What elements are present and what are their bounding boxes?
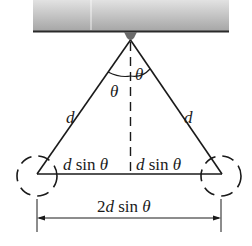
left-half-base-label: d sin θ — [63, 155, 108, 174]
total-width-label: 2d sin θ — [97, 197, 151, 216]
right-angle-label: θ — [135, 65, 143, 84]
right-arrowhead — [213, 216, 221, 221]
left-angle-label: θ — [110, 82, 118, 101]
left-string — [37, 40, 131, 174]
ceiling — [33, 0, 229, 32]
right-half-base-label: d sin θ — [136, 155, 181, 174]
right-length-label: d — [184, 108, 193, 127]
pivot-mount — [124, 32, 137, 40]
pendulum-diagram: d d θ θ d sin θ d sin θ 2d sin θ — [0, 0, 252, 246]
right-mass-outline — [201, 156, 241, 196]
left-mass-outline — [17, 156, 57, 196]
left-arrowhead — [37, 216, 45, 221]
left-length-label: d — [66, 108, 75, 127]
right-string — [131, 40, 223, 174]
left-angle-arc — [108, 72, 131, 77]
